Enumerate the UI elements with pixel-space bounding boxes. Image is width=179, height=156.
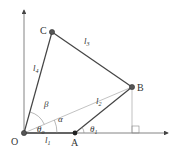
joint-c xyxy=(49,29,54,34)
label-b: B xyxy=(137,82,144,93)
label-beta: β xyxy=(43,99,49,109)
label-alpha: α xyxy=(58,114,63,124)
joint-b xyxy=(129,84,134,89)
joint-o xyxy=(21,130,26,135)
label-l3: l3 xyxy=(84,36,90,47)
link-l2 xyxy=(75,87,132,133)
four-bar-linkage-diagram: O A B C l1 l2 l3 l4 θo α β θ1 xyxy=(0,0,179,156)
arc-theta-1 xyxy=(82,127,84,133)
arc-beta xyxy=(30,112,44,124)
link-l4 xyxy=(24,32,52,133)
label-a: A xyxy=(71,137,79,148)
link-l3 xyxy=(52,32,132,87)
label-o: O xyxy=(11,136,18,147)
label-l1: l1 xyxy=(45,135,51,146)
label-c: C xyxy=(40,25,47,36)
label-l2: l2 xyxy=(96,96,102,107)
arc-alpha xyxy=(54,120,57,133)
joint-a xyxy=(73,131,78,136)
label-theta-1: θ1 xyxy=(90,124,97,135)
label-theta-o: θo xyxy=(37,124,44,135)
label-l4: l4 xyxy=(33,63,39,74)
right-angle-mark xyxy=(132,126,139,133)
